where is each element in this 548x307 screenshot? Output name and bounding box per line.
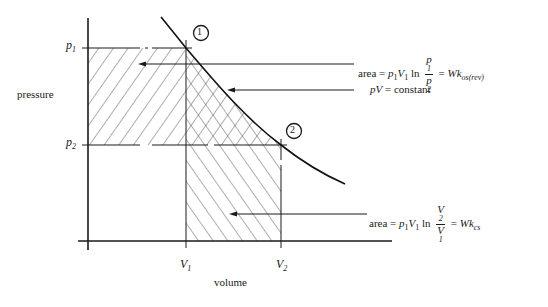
- p1-tick-label: p1: [66, 38, 76, 54]
- state-2-label: 2: [290, 124, 295, 135]
- state-1-label: 1: [197, 26, 202, 37]
- bottom-area-formula: area = p1V1 ln V2V1 = Wkcs: [369, 204, 480, 245]
- v2-tick-label: V2: [276, 257, 287, 273]
- hatch-region-left: [88, 48, 186, 145]
- pv-diagram-canvas: [0, 0, 548, 307]
- p2-tick-label: p2: [66, 135, 76, 151]
- y-axis-title: pressure: [17, 88, 54, 100]
- curve-arrowhead: [227, 88, 235, 93]
- curve-label: pV = constant: [370, 83, 431, 95]
- x-axis-title: volume: [214, 276, 247, 288]
- v1-tick-label: V1: [180, 257, 191, 273]
